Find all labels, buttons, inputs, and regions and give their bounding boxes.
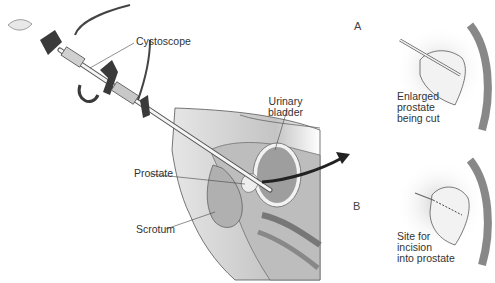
label-urinary-bladder: Urinary bladder (268, 96, 303, 118)
label-scrotum: Scrotum (136, 224, 175, 235)
eye-icon (8, 20, 32, 31)
label-cystoscope: Cystoscope (136, 36, 191, 47)
pelvis-cross-section (172, 108, 320, 280)
urinary-bladder (255, 145, 299, 205)
panel-a-letter: A (354, 20, 361, 32)
panel-b-letter: B (353, 200, 360, 212)
panel-a-caption: Enlarged prostate being cut (397, 91, 440, 124)
cystoscope (8, 5, 270, 190)
panel-b-caption: Site for incision into prostate (397, 231, 455, 264)
label-prostate: Prostate (134, 168, 173, 179)
